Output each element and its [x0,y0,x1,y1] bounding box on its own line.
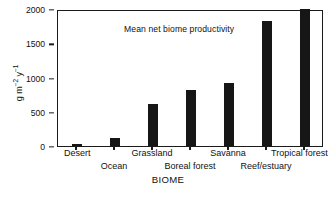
x-tick-label: Desert [64,148,91,158]
x-tick-mark [265,147,266,150]
chart-figure: 0500100015002000 g m−2 y−1 Mean net biom… [0,0,336,197]
x-tick-label: Boreal forest [164,161,215,171]
x-axis: DesertOceanGrasslandBoreal forestSavanna… [0,0,336,197]
x-tick-mark [189,147,190,150]
x-tick-label: Tropical forest [271,148,328,158]
x-tick-mark [113,147,114,150]
x-tick-mark [303,147,304,150]
x-tick-mark [227,147,228,150]
x-axis-title: BIOME [0,174,336,185]
x-tick-mark [75,147,76,150]
x-tick-label: Reef/estuary [240,161,291,171]
x-tick-mark [151,147,152,150]
x-tick-label: Ocean [101,161,128,171]
